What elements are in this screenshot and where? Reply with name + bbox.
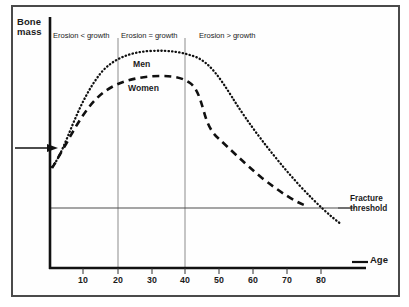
series-label-men: Men xyxy=(133,60,150,69)
fracture-threshold-label: Fracture threshold xyxy=(350,194,387,213)
y-axis-label: Bone mass xyxy=(17,17,42,38)
x-tick-label-40: 40 xyxy=(175,276,195,286)
x-tick-label-70: 70 xyxy=(277,276,297,286)
zone-label-erosion-less-than-growth: Erosion < growth xyxy=(53,32,109,40)
x-axis-label: Age xyxy=(370,255,388,265)
x-tick-label-80: 80 xyxy=(311,276,331,286)
x-tick-label-50: 50 xyxy=(209,276,229,286)
figure-frame xyxy=(11,5,400,297)
zone-label-erosion-equals-growth: Erosion = growth xyxy=(121,32,177,40)
x-tick-label-10: 10 xyxy=(73,276,93,286)
zone-label-erosion-greater-than-growth: Erosion > growth xyxy=(199,32,255,40)
x-tick-label-30: 30 xyxy=(142,276,162,286)
series-label-women: Women xyxy=(128,84,159,93)
x-tick-label-20: 20 xyxy=(108,276,128,286)
x-tick-label-60: 60 xyxy=(243,276,263,286)
